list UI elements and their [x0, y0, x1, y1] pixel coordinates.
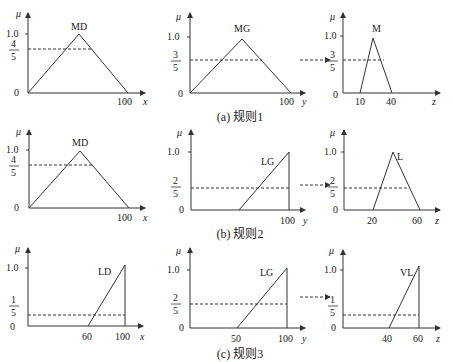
- panel-a-y-mg: [187, 13, 330, 93]
- cut-den: 5: [11, 167, 16, 178]
- mu-label: μ: [175, 245, 181, 256]
- tick-10: 10: [355, 96, 365, 107]
- set-label-md: MD: [71, 21, 87, 32]
- cut-den: 5: [173, 62, 178, 73]
- axis-y: y: [301, 333, 307, 344]
- panel-c-x-ld: [25, 248, 143, 326]
- cut-num: 1: [11, 294, 16, 305]
- mu-label: μ: [328, 245, 334, 256]
- panel-c-z-vl: [340, 250, 440, 328]
- tick-1: 1.0: [167, 264, 180, 275]
- tick-0: 0: [333, 89, 338, 100]
- axis-y: y: [302, 215, 308, 226]
- tick-50: 50: [231, 333, 241, 344]
- panel-b-y-lg: [188, 130, 330, 210]
- tick-0: 0: [331, 322, 336, 333]
- tick-1: 1.0: [324, 146, 337, 157]
- tick-40: 40: [382, 333, 392, 344]
- panel-c-y-lg: [187, 248, 330, 328]
- cut-den: 5: [11, 51, 16, 62]
- set-label-lg: LG: [261, 156, 274, 167]
- tick-1: 1.0: [167, 146, 180, 157]
- mu-label: μ: [175, 11, 181, 22]
- mu-label: μ: [329, 11, 335, 22]
- cut-num: 4: [11, 154, 16, 165]
- tick-100: 100: [278, 333, 293, 344]
- caption-rule-2: (b) 规则2: [217, 224, 264, 242]
- tick-0: 0: [333, 204, 338, 215]
- tick-0: 0: [179, 204, 184, 215]
- cut-num: 1: [330, 294, 335, 305]
- tick-60: 60: [413, 333, 423, 344]
- axis-x: x: [142, 212, 148, 223]
- tick-20: 20: [367, 215, 377, 226]
- caption-rule-3: (c) 规则3: [217, 344, 263, 362]
- caption-rule-1: (a) 规则1: [217, 107, 263, 125]
- tick-100: 100: [115, 331, 130, 342]
- cut-num: 2: [173, 175, 178, 186]
- axis-z: z: [431, 96, 436, 107]
- tick-0: 0: [14, 87, 19, 98]
- axis-x: x: [142, 96, 148, 107]
- panel-a-z-m: [340, 13, 440, 93]
- cut-num: 2: [330, 175, 335, 186]
- mu-label: μ: [14, 243, 20, 254]
- tick-100: 100: [117, 212, 132, 223]
- tick-0: 0: [178, 88, 183, 99]
- set-label-vl: VL: [400, 267, 413, 278]
- set-label-mg: MG: [234, 23, 250, 34]
- set-label-lg: LG: [260, 267, 273, 278]
- cut-den: 5: [173, 188, 178, 199]
- tick-1: 1.0: [6, 262, 19, 273]
- set-label-ld: LD: [98, 266, 111, 277]
- tick-0: 0: [10, 321, 15, 332]
- cut-den: 5: [330, 188, 335, 199]
- mu-label: μ: [15, 126, 21, 137]
- cut-den: 5: [330, 307, 335, 318]
- tick-100: 100: [280, 215, 295, 226]
- panel-b-z-l: [341, 130, 440, 210]
- tick-0: 0: [179, 322, 184, 333]
- axis-y: y: [301, 96, 307, 107]
- set-label-md: MD: [72, 137, 88, 148]
- axis-z: z: [435, 333, 440, 344]
- tick-40: 40: [386, 96, 396, 107]
- mu-label: μ: [176, 127, 182, 138]
- cut-num: 3: [330, 49, 335, 60]
- axis-z: z: [434, 215, 439, 226]
- fuzzy-rules-diagram: μ 1.0 4 5 0 MD 100 x μ 1.0 3 5 0 MG 100 …: [0, 0, 453, 362]
- mu-label: μ: [329, 127, 335, 138]
- cut-num: 3: [173, 49, 178, 60]
- set-label-m: M: [372, 23, 381, 34]
- tick-100: 100: [279, 96, 294, 107]
- tick-60: 60: [82, 331, 92, 342]
- cut-den: 5: [330, 62, 335, 73]
- cut-den: 5: [11, 307, 16, 318]
- cut-den: 5: [173, 305, 178, 316]
- tick-1: 1.0: [324, 30, 337, 41]
- tick-60: 60: [412, 215, 422, 226]
- set-label-l: L: [397, 151, 403, 162]
- mu-label: μ: [15, 8, 21, 19]
- tick-1: 1.0: [324, 264, 337, 275]
- axis-x: x: [139, 331, 145, 342]
- tick-1: 1.0: [167, 31, 180, 42]
- cut-num: 4: [11, 38, 16, 49]
- tick-100: 100: [117, 96, 132, 107]
- tick-0: 0: [14, 202, 19, 213]
- cut-num: 2: [173, 292, 178, 303]
